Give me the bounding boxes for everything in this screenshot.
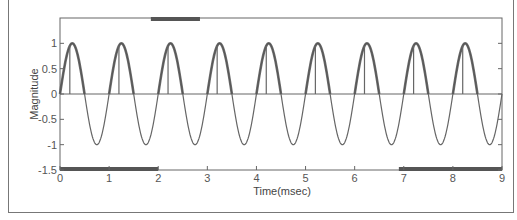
x-tick-label: 0	[57, 172, 63, 184]
y-tick-label: -0.5	[38, 113, 57, 125]
x-tick-label: 2	[155, 172, 161, 184]
y-tick-label: 1	[51, 37, 57, 49]
x-tick-label: 5	[302, 172, 308, 184]
x-tick-label: 6	[352, 172, 358, 184]
sine-positive-half	[207, 43, 232, 94]
x-tick-label: 1	[106, 172, 112, 184]
sine-positive-half	[355, 43, 380, 94]
y-tick-label: -1.5	[38, 164, 57, 176]
chart: 012345678910.50-0.5-1-1.5 Time(msec) Mag…	[0, 0, 517, 220]
x-tick-label: 9	[499, 172, 505, 184]
sine-positive-half	[158, 43, 183, 94]
x-tick-label: 8	[450, 172, 456, 184]
x-tick-label: 3	[204, 172, 210, 184]
x-axis-label: Time(msec)	[253, 185, 311, 197]
y-tick-label: 0	[51, 88, 57, 100]
sine-positive-half	[404, 43, 429, 94]
sine-positive-half	[109, 43, 134, 94]
sine-positive-half	[256, 43, 281, 94]
plot-area: 012345678910.50-0.5-1-1.5	[38, 18, 505, 184]
x-tick-label: 4	[253, 172, 259, 184]
sine-positive-half	[306, 43, 331, 94]
y-axis-label: Magnitude	[28, 68, 40, 119]
y-tick-label: -1	[47, 139, 57, 151]
sine-positive-half	[453, 43, 478, 94]
y-tick-label: 0.5	[42, 63, 57, 75]
x-tick-label: 7	[401, 172, 407, 184]
